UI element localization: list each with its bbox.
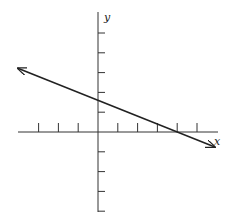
- x-axis-label: x: [214, 135, 221, 148]
- line-series: [18, 68, 215, 147]
- coordinate-plane: x y: [0, 0, 231, 222]
- data-line: [18, 68, 215, 147]
- tick-marks: [39, 33, 197, 211]
- y-axis-label: y: [103, 11, 111, 24]
- axes: [18, 12, 218, 212]
